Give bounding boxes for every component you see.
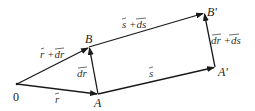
label-vector-r-plus-dr: r +dr xyxy=(40,48,65,60)
label-vector-dr-plus-ds: dr +ds xyxy=(211,34,241,46)
origin-dot xyxy=(16,83,19,86)
label-point-a: A xyxy=(93,96,102,110)
label-vector-r: r xyxy=(55,93,60,105)
diagram-svg: 0 A B A' B' r r +dr dr s s +ds dr +ds xyxy=(0,0,255,111)
label-vector-dr: dr xyxy=(77,67,88,79)
label-origin: 0 xyxy=(13,90,19,104)
label-point-a-prime: A' xyxy=(217,65,228,79)
vector-s xyxy=(98,68,214,95)
vector-dr xyxy=(90,48,99,94)
label-vector-s: s xyxy=(149,67,153,79)
label-point-b-prime: B' xyxy=(207,5,217,19)
label-point-b: B xyxy=(85,32,93,46)
label-vector-s-plus-ds: s +ds xyxy=(122,18,146,30)
vector-diagram: 0 A B A' B' r r +dr dr s s +ds dr +ds xyxy=(0,0,255,111)
